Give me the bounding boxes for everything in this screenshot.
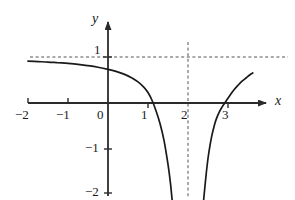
y-tick-label-neg2: −2 (85, 185, 99, 198)
curve-right-branch (203, 73, 253, 200)
x-tick-label-three: 3 (222, 108, 229, 121)
y-tick-label-one: 1 (94, 43, 101, 56)
x-tick-label-neg2: −2 (15, 108, 29, 121)
function-plot-canvas (0, 0, 295, 200)
curve-left-branch (28, 61, 173, 200)
x-tick-label-zero: 0 (97, 108, 104, 121)
graph-figure: −2 −1 0 1 2 3 1 −1 −2 y x (0, 0, 295, 200)
x-tick-label-neg1: −1 (56, 108, 70, 121)
y-axis-label: y (92, 12, 98, 26)
x-axis-label: x (275, 94, 281, 108)
y-tick-label-neg1: −1 (85, 141, 99, 154)
x-tick-label-two: 2 (181, 108, 188, 121)
x-tick-label-one: 1 (141, 108, 148, 121)
